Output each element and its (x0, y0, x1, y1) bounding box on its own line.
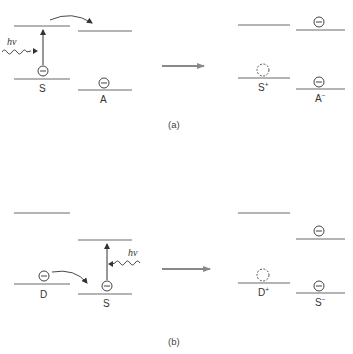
species-label-s: S (103, 298, 110, 309)
electron-transfer-arrow (52, 271, 87, 283)
panel-b: D hν S D+ (14, 213, 345, 347)
electron-transfer-diagram: hν S A S+ (0, 0, 353, 354)
species-label-d-plus: D+ (258, 286, 269, 298)
species-label-s-minus: S− (315, 296, 326, 308)
species-label-s-plus: S+ (258, 81, 269, 93)
electron-icon (314, 77, 324, 87)
photon-arrowhead-icon (108, 261, 113, 267)
electron-icon (314, 281, 324, 291)
photon-label: hν (7, 36, 17, 47)
panel-b-after: D+ S− (238, 213, 345, 308)
electron-icon (314, 226, 324, 236)
photon-arrowhead-icon (33, 48, 38, 54)
electron-icon (102, 281, 112, 291)
panel-a-before: hν S A (2, 16, 132, 105)
panel-caption-a: (a) (168, 119, 180, 130)
electron-icon (99, 78, 109, 88)
species-label-d: D (40, 289, 47, 300)
hole-icon (257, 269, 269, 281)
species-label-a-minus: A− (315, 92, 326, 104)
photon-label: hν (128, 247, 138, 258)
photon-wave-icon (112, 261, 140, 265)
panel-caption-b: (b) (168, 336, 180, 347)
panel-a-after: S+ A− (238, 17, 345, 104)
panel-a: hν S A S+ (2, 16, 345, 130)
species-label-s: S (39, 83, 46, 94)
panel-b-before: D hν S (14, 213, 140, 309)
photon-wave-icon (2, 50, 31, 54)
species-label-a: A (100, 94, 107, 105)
electron-icon (314, 17, 324, 27)
electron-transfer-arrow (50, 16, 92, 23)
electron-icon (39, 271, 49, 281)
electron-icon (38, 66, 48, 76)
hole-icon (257, 64, 269, 76)
